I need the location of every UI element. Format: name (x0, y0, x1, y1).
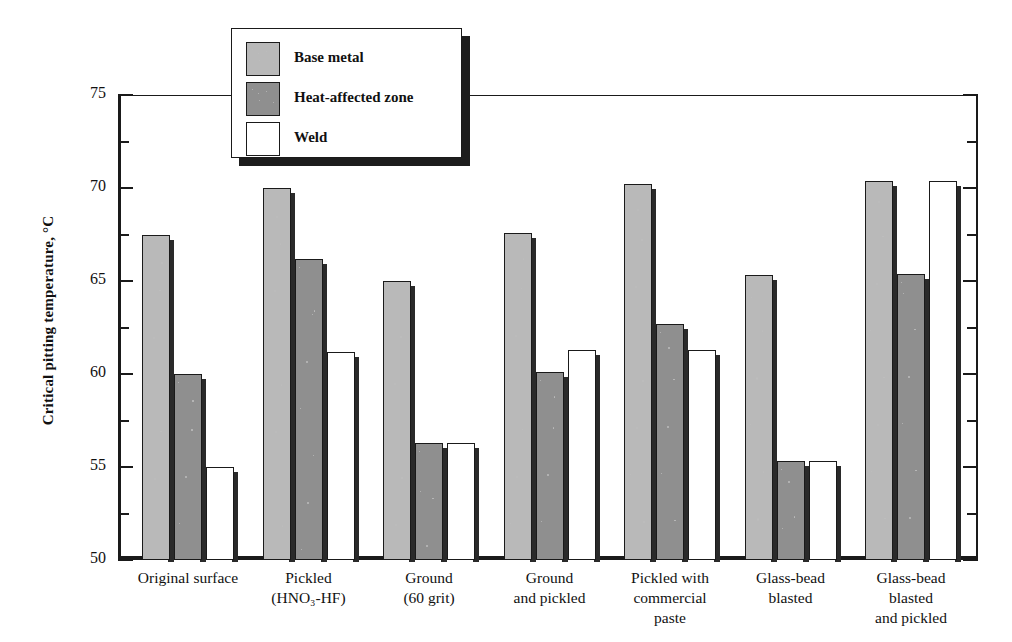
bar-texture-speck (757, 518, 759, 520)
bar-texture-speck (420, 491, 421, 492)
bar-texture-speck (179, 523, 180, 524)
bar-texture-speck (154, 478, 156, 480)
bar-texture-speck (782, 528, 783, 529)
bar (624, 184, 652, 560)
bar-texture-speck (400, 336, 402, 338)
y-axis-title: Critical pitting temperature, °C (40, 191, 57, 451)
bar-texture-speck (870, 330, 871, 331)
bar-texture-speck (148, 525, 149, 526)
bar-texture-speck (178, 382, 179, 383)
legend-swatch (246, 42, 280, 76)
bar-texture-speck (314, 310, 316, 312)
bar-texture-speck (161, 262, 163, 264)
bar (745, 275, 773, 560)
bar-texture-speck (660, 332, 661, 333)
bar-texture-speck (541, 521, 542, 522)
bar (504, 233, 532, 560)
bar-texture-speck (267, 196, 268, 197)
bar-texture-speck (269, 478, 270, 479)
bar (568, 350, 596, 560)
bar-texture-speck (389, 308, 390, 309)
category-label-line: blasted (831, 588, 991, 608)
bar-texture-speck (884, 518, 886, 520)
bar-texture-speck (387, 289, 388, 290)
bar-texture-speck (146, 243, 147, 244)
bar-texture-speck (869, 189, 870, 190)
bar-texture-speck (419, 451, 420, 452)
legend-label: Weld (294, 129, 327, 146)
bar (447, 443, 475, 560)
bar-texture-speck (282, 525, 284, 527)
bar-texture-speck (661, 473, 662, 474)
bar-texture-speck (281, 384, 283, 386)
bar-texture-speck (751, 297, 752, 298)
legend-label: Base metal (294, 49, 364, 66)
y-tick-label: 60 (60, 363, 106, 381)
bar-texture-speck (508, 241, 509, 242)
bar-chart: Critical pitting temperature, °C 7570656… (0, 0, 1012, 642)
bar (688, 350, 716, 560)
bar (656, 324, 684, 560)
bar (174, 374, 202, 560)
category-label: Glass-beadblastedand pickled (831, 568, 991, 627)
bar-texture-speck (306, 361, 308, 363)
bar-texture-speck (553, 427, 555, 429)
bar-texture-speck (554, 396, 556, 398)
bar (536, 372, 564, 560)
bar-texture-speck (914, 329, 916, 331)
bar-texture-speck (523, 258, 525, 260)
bar-texture-speck (515, 335, 517, 337)
bar-texture-speck (192, 400, 194, 402)
bar-texture-speck (276, 216, 278, 218)
bar (777, 461, 805, 560)
bar-texture-speck (159, 290, 161, 292)
bar-texture-speck (643, 521, 645, 523)
bar-texture-speck (516, 476, 518, 478)
bar (929, 181, 957, 560)
bar-texture-speck (307, 502, 309, 504)
bar-texture-speck (668, 347, 670, 349)
legend-swatch (246, 122, 280, 156)
bar-texture-speck (153, 337, 155, 339)
bar-texture-speck (274, 290, 276, 292)
bar-texture-speck (268, 337, 269, 338)
bar-texture-speck (883, 377, 885, 379)
bar-texture-speck (876, 283, 878, 285)
bar (327, 352, 355, 560)
category-label-line: paste (590, 608, 750, 628)
bar-texture-speck (762, 330, 764, 332)
bar (809, 461, 837, 560)
bar-texture-speck (388, 430, 389, 431)
category-label-line: Glass-bead (831, 568, 991, 588)
bar-texture-speck (794, 516, 796, 518)
y-tick-label: 65 (60, 270, 106, 288)
bar-texture-speck (300, 408, 301, 409)
bar-texture-speck (871, 471, 872, 472)
bar (415, 443, 443, 560)
legend-swatch (246, 82, 280, 116)
bar-texture-speck (540, 380, 541, 381)
bar (383, 281, 411, 560)
bar-texture-speck (401, 477, 403, 479)
bar-texture-speck (877, 424, 879, 426)
bar-texture-speck (509, 382, 510, 383)
bar-texture-speck (641, 239, 643, 241)
bar-texture-speck (637, 209, 639, 211)
bar (142, 235, 170, 561)
bar-texture-speck (510, 523, 511, 524)
bar-texture-speck (909, 517, 911, 519)
bar-texture-speck (763, 471, 765, 473)
bar-texture-speck (756, 377, 758, 379)
bar (295, 259, 323, 560)
bar (263, 188, 291, 560)
category-label-line: and pickled (831, 608, 991, 628)
y-tick-label: 50 (60, 549, 106, 567)
bar-texture-speck (191, 429, 193, 431)
bar-texture-speck (301, 549, 302, 550)
bar-texture-speck (915, 470, 917, 472)
bar-texture-speck (275, 431, 277, 433)
bar-texture-speck (160, 431, 162, 433)
y-tick-label: 75 (60, 84, 106, 102)
bar-texture-speck (901, 282, 902, 283)
bar-texture-speck (902, 423, 903, 424)
